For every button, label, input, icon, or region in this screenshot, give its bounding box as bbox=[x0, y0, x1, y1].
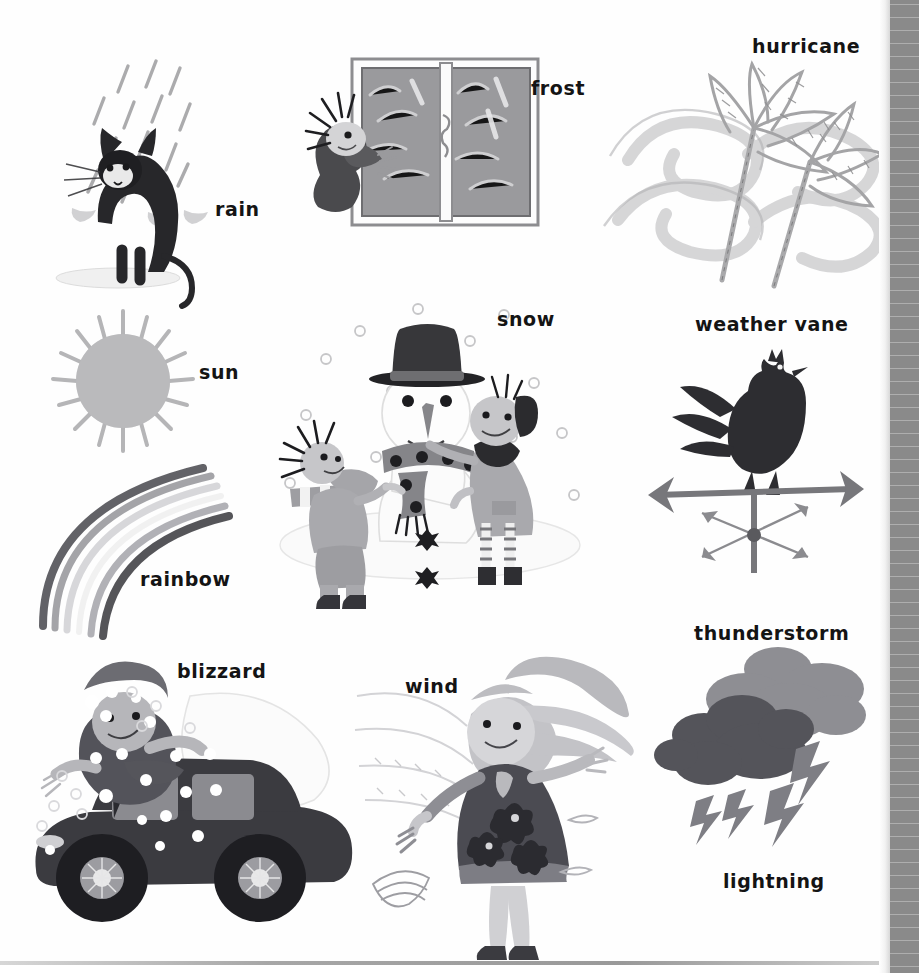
label-weather-vane: weather vane bbox=[695, 315, 849, 334]
page-edge-line bbox=[890, 238, 919, 239]
page-edge-line bbox=[890, 225, 919, 226]
page-edge-line bbox=[890, 472, 919, 473]
page-edge-line bbox=[890, 719, 919, 720]
page-edge-line bbox=[890, 550, 919, 551]
page-edge-line bbox=[890, 433, 919, 434]
page-edge-line bbox=[890, 914, 919, 915]
page-edge-line bbox=[890, 940, 919, 941]
page-edge-line bbox=[890, 758, 919, 759]
page-edge-line bbox=[890, 888, 919, 889]
label-rainbow: rainbow bbox=[140, 570, 231, 589]
page-edge-line bbox=[890, 862, 919, 863]
page-edge-line bbox=[890, 342, 919, 343]
page-edge-line bbox=[890, 186, 919, 187]
illustration-snow-scene bbox=[270, 295, 590, 585]
page-edge-line bbox=[890, 589, 919, 590]
page-edge-line bbox=[890, 706, 919, 707]
label-thunderstorm: thunderstorm bbox=[694, 624, 849, 643]
page-edge-line bbox=[890, 537, 919, 538]
illustration-storm-clouds bbox=[650, 645, 880, 865]
page-edge-line bbox=[890, 251, 919, 252]
illustration-weather-vane bbox=[640, 345, 870, 575]
page-edge-line bbox=[890, 524, 919, 525]
page-edge-line bbox=[890, 563, 919, 564]
page-edge-line bbox=[890, 329, 919, 330]
illustration-rainbow bbox=[25, 450, 225, 630]
label-wind: wind bbox=[405, 677, 459, 696]
page-edge-line bbox=[890, 615, 919, 616]
page-edge-line bbox=[890, 836, 919, 837]
page-edge-line bbox=[890, 43, 919, 44]
page-bottom-margin bbox=[0, 965, 890, 973]
page-edge-line bbox=[890, 368, 919, 369]
page-edge-line bbox=[890, 17, 919, 18]
page-edge-line bbox=[890, 849, 919, 850]
page-edge-line bbox=[890, 290, 919, 291]
page-edge-line bbox=[890, 303, 919, 304]
page-edge-line bbox=[890, 108, 919, 109]
illustration-blizzard-car bbox=[20, 650, 380, 930]
page-edge-line bbox=[890, 576, 919, 577]
page-edge-line bbox=[890, 394, 919, 395]
page-edge-line bbox=[890, 641, 919, 642]
page-edge-line bbox=[890, 927, 919, 928]
illustration-hurricane-palm bbox=[598, 60, 888, 290]
page-edge-line bbox=[890, 901, 919, 902]
page-edge-line bbox=[890, 810, 919, 811]
page-edge-line bbox=[890, 771, 919, 772]
label-sun: sun bbox=[199, 363, 239, 382]
page-edge-line bbox=[890, 745, 919, 746]
label-snow: snow bbox=[497, 310, 555, 329]
page-gutter-shadow bbox=[879, 0, 890, 973]
page-edge-line bbox=[890, 966, 919, 967]
page-edge-line bbox=[890, 134, 919, 135]
page-edge-line bbox=[890, 355, 919, 356]
label-hurricane: hurricane bbox=[752, 37, 860, 56]
page-edge-line bbox=[890, 147, 919, 148]
label-blizzard: blizzard bbox=[177, 662, 266, 681]
page-edge-line bbox=[890, 277, 919, 278]
label-frost: frost bbox=[531, 79, 585, 98]
page-edge-line bbox=[890, 381, 919, 382]
page-edge-line bbox=[890, 693, 919, 694]
page-edge-line bbox=[890, 511, 919, 512]
page-edge-line bbox=[890, 264, 919, 265]
page-edge-line bbox=[890, 628, 919, 629]
page-edge-line bbox=[890, 667, 919, 668]
book-page-edge-strip bbox=[890, 0, 919, 973]
page-edge-line bbox=[890, 953, 919, 954]
page-edge-line bbox=[890, 160, 919, 161]
page-edge-line bbox=[890, 875, 919, 876]
dictionary-page: rain bbox=[0, 0, 919, 973]
page-edge-line bbox=[890, 173, 919, 174]
label-lightning: lightning bbox=[723, 872, 825, 891]
illustration-frost-window bbox=[300, 55, 550, 270]
page-edge-line bbox=[890, 56, 919, 57]
page-edge-line bbox=[890, 654, 919, 655]
page-edge-line bbox=[890, 121, 919, 122]
page-edge-line bbox=[890, 82, 919, 83]
illustration-rain-cat bbox=[60, 60, 260, 300]
page-edge-line bbox=[890, 95, 919, 96]
page-edge-line bbox=[890, 316, 919, 317]
page-edge-line bbox=[890, 30, 919, 31]
page-edge-line bbox=[890, 498, 919, 499]
page-edge-line bbox=[890, 446, 919, 447]
page-edge-line bbox=[890, 485, 919, 486]
illustration-sun bbox=[45, 305, 205, 455]
page-edge-line bbox=[890, 602, 919, 603]
page-edge-line bbox=[890, 784, 919, 785]
illustration-wind-girl bbox=[355, 660, 635, 960]
page-edge-line bbox=[890, 680, 919, 681]
page-edge-line bbox=[890, 732, 919, 733]
page-edge-line bbox=[890, 69, 919, 70]
page-edge-line bbox=[890, 212, 919, 213]
page-edge-line bbox=[890, 199, 919, 200]
page-edge-line bbox=[890, 420, 919, 421]
page-edge-line bbox=[890, 459, 919, 460]
page-edge-line bbox=[890, 407, 919, 408]
page-edge-line bbox=[890, 823, 919, 824]
label-rain: rain bbox=[215, 200, 260, 219]
page-edge-line bbox=[890, 4, 919, 5]
page-edge-line bbox=[890, 797, 919, 798]
